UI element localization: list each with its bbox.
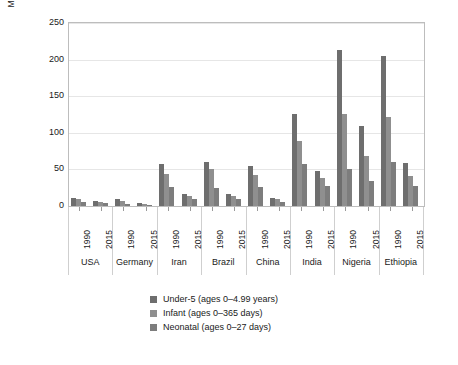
bar (214, 188, 219, 206)
x-tick-mark (168, 207, 169, 211)
bar (169, 187, 174, 206)
x-axis: 19902015USA19902015Germany19902015Iran19… (68, 207, 425, 275)
bar (236, 199, 241, 206)
bar (147, 205, 152, 206)
bar (103, 203, 108, 206)
bar-group (270, 23, 285, 206)
bar (347, 169, 352, 206)
x-tick-mark (390, 207, 391, 211)
legend-swatch (150, 310, 157, 317)
y-tick-label: 200 (34, 55, 64, 64)
legend-label: Infant (ages 0–365 days) (163, 308, 263, 318)
x-tick-label-year: 2015 (105, 209, 114, 249)
bar (81, 202, 86, 206)
legend-label: Neonatal (ages 0–27 days) (163, 322, 271, 332)
x-group-label-country: Iran (157, 257, 201, 267)
x-tick-label-year: 1990 (394, 209, 403, 249)
bar-group (381, 23, 396, 206)
x-tick-mark (190, 207, 191, 211)
bar-group (137, 23, 152, 206)
bar-group (93, 23, 108, 206)
x-tick-label-year: 1990 (172, 209, 181, 249)
x-tick-mark (79, 207, 80, 211)
y-tick-label: 50 (34, 164, 64, 173)
x-tick-mark (234, 207, 235, 211)
x-tick-mark (412, 207, 413, 211)
y-tick-label: 100 (34, 128, 64, 137)
x-tick-label-year: 1990 (261, 209, 270, 249)
x-group-label-country: China (246, 257, 290, 267)
bar-series-container (69, 23, 424, 206)
bar-group (226, 23, 241, 206)
x-tick-label-year: 1990 (83, 209, 92, 249)
legend: Under-5 (ages 0–4.99 years)Infant (ages … (150, 292, 380, 334)
x-tick-mark (146, 207, 147, 211)
bar (302, 164, 307, 206)
y-tick-label: 0 (34, 201, 64, 210)
bar-group (159, 23, 174, 206)
bar (192, 199, 197, 206)
x-tick-mark (212, 207, 213, 211)
x-group-label-country: Germany (112, 257, 156, 267)
y-axis-title-label: Mortality rate per 1000 live births (6, 0, 16, 32)
bar (413, 186, 418, 206)
x-tick-mark (123, 207, 124, 211)
bar-group (403, 23, 418, 206)
y-tick-label: 150 (34, 91, 64, 100)
x-tick-label-year: 1990 (349, 209, 358, 249)
y-tick-label: 250 (34, 18, 64, 27)
bar (258, 187, 263, 206)
legend-swatch (150, 296, 157, 303)
legend-label: Under-5 (ages 0–4.99 years) (163, 294, 278, 304)
bar (391, 162, 396, 206)
bar-group (182, 23, 197, 206)
x-tick-label-year: 2015 (283, 209, 292, 249)
x-tick-mark (257, 207, 258, 211)
x-tick-label-year: 1990 (216, 209, 225, 249)
x-group-label-country: Nigeria (334, 257, 378, 267)
x-group-label-country: Brazil (201, 257, 245, 267)
bar-group (248, 23, 263, 206)
x-group-label-country: USA (68, 257, 112, 267)
bar (125, 204, 130, 206)
x-tick-label-year: 2015 (150, 209, 159, 249)
x-tick-mark (368, 207, 369, 211)
legend-swatch (150, 324, 157, 331)
bar-group (115, 23, 130, 206)
x-tick-mark (101, 207, 102, 211)
bar (369, 181, 374, 206)
bar-group (292, 23, 307, 206)
x-tick-label-year: 2015 (194, 209, 203, 249)
x-group-label-country: India (290, 257, 334, 267)
bar-group (71, 23, 86, 206)
x-tick-mark (301, 207, 302, 211)
x-tick-label-year: 2015 (327, 209, 336, 249)
bar-group (359, 23, 374, 206)
bar (280, 202, 285, 206)
x-tick-label-year: 1990 (305, 209, 314, 249)
x-group-label-country: Ethiopia (379, 257, 423, 267)
x-tick-mark (345, 207, 346, 211)
bar-group (204, 23, 219, 206)
legend-item: Infant (ages 0–365 days) (150, 306, 380, 320)
x-tick-label-year: 1990 (127, 209, 136, 249)
bar-group (337, 23, 352, 206)
x-tick-mark (323, 207, 324, 211)
x-tick-label-year: 2015 (372, 209, 381, 249)
bar (325, 186, 330, 206)
legend-item: Neonatal (ages 0–27 days) (150, 320, 380, 334)
y-axis-tick-labels: 050100150200250 (30, 22, 64, 207)
x-tick-mark (279, 207, 280, 211)
bar-group (315, 23, 330, 206)
x-tick-label-year: 2015 (416, 209, 425, 249)
legend-item: Under-5 (ages 0–4.99 years) (150, 292, 380, 306)
y-axis-title: Mortality rate per 1000 live births (6, 0, 18, 32)
x-tick-label-year: 2015 (238, 209, 247, 249)
mortality-rate-bar-chart: Mortality rate per 1000 live births 0501… (0, 0, 458, 365)
